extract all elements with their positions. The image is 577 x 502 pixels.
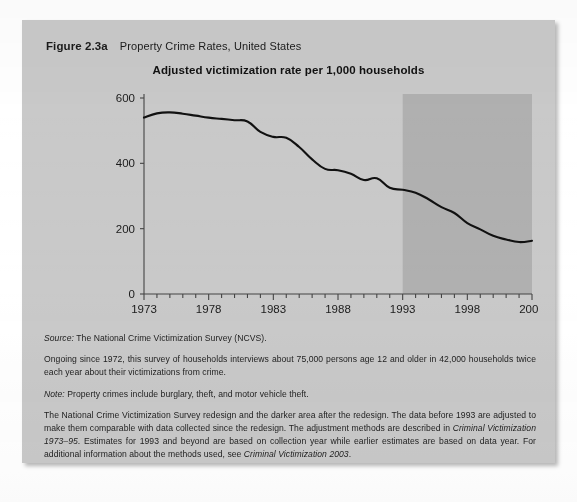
- svg-text:2003: 2003: [519, 303, 538, 315]
- x-axis-tick-labels: 1973197819831988199319982003: [131, 303, 538, 315]
- chart-title: Adjusted victimization rate per 1,000 ho…: [22, 64, 555, 76]
- svg-text:1973: 1973: [131, 303, 157, 315]
- figure-caption: Property Crime Rates, United States: [120, 40, 301, 52]
- source-text: The National Crime Victimization Survey …: [74, 333, 267, 343]
- y-axis-tick-labels: 0200400600: [116, 92, 135, 300]
- redesign-citation-2: Criminal Victimization 2003: [244, 449, 349, 459]
- svg-text:600: 600: [116, 92, 135, 104]
- svg-text:1998: 1998: [455, 303, 481, 315]
- svg-text:1988: 1988: [325, 303, 351, 315]
- chart-plot-area: 0200400600 1973197819831988199319982003: [96, 92, 538, 322]
- svg-text:400: 400: [116, 157, 135, 169]
- figure-notes: Source: The National Crime Victimization…: [44, 332, 536, 470]
- svg-text:1993: 1993: [390, 303, 416, 315]
- figure-heading: Figure 2.3aProperty Crime Rates, United …: [46, 36, 301, 54]
- note-label: Note:: [44, 389, 65, 399]
- chart-block: Adjusted victimization rate per 1,000 ho…: [22, 64, 555, 326]
- redesign-shaded-region: [403, 94, 532, 294]
- svg-text:1978: 1978: [196, 303, 222, 315]
- redesign-note: The National Crime Victimization Survey …: [44, 409, 536, 462]
- svg-text:0: 0: [129, 288, 135, 300]
- redesign-text-part3: .: [349, 449, 351, 459]
- svg-text:1983: 1983: [261, 303, 287, 315]
- definition-note: Note: Property crimes include burglary, …: [44, 388, 536, 401]
- line-chart-svg: 0200400600 1973197819831988199319982003: [96, 92, 538, 322]
- source-note: Source: The National Crime Victimization…: [44, 332, 536, 345]
- svg-text:200: 200: [116, 223, 135, 235]
- source-label: Source:: [44, 333, 74, 343]
- ongoing-note: Ongoing since 1972, this survey of house…: [44, 353, 536, 379]
- note-text: Property crimes include burglary, theft,…: [65, 389, 309, 399]
- figure-number: Figure 2.3a: [46, 40, 108, 52]
- figure-card: Figure 2.3aProperty Crime Rates, United …: [22, 20, 555, 463]
